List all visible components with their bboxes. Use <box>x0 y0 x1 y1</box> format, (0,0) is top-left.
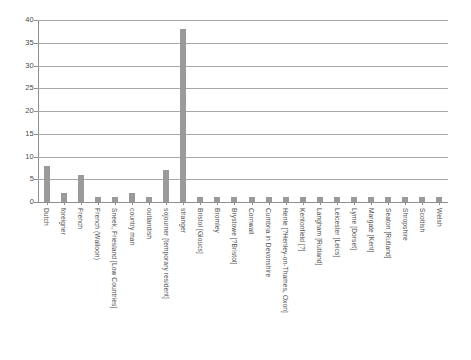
bar <box>78 175 84 202</box>
x-tick-mark <box>337 202 338 205</box>
y-tick-label: 0 <box>30 198 34 206</box>
bar <box>180 29 186 202</box>
x-tick-label: stranger <box>179 208 186 233</box>
bar <box>163 170 169 202</box>
x-tick-label: Welsh <box>435 208 442 227</box>
x-tick-label: Leicester [Leics] <box>333 208 340 257</box>
y-tick-label: 20 <box>25 107 34 115</box>
x-tick-label: Sneek, Friesland [Low Countries] <box>111 208 118 308</box>
x-tick-label: country man <box>128 208 135 245</box>
x-tick-label: Cornwall <box>248 208 255 234</box>
y-tick-label: 40 <box>25 16 34 24</box>
x-tick-mark <box>354 202 355 205</box>
bar-chart: 0510152025303540 DutchforeignerFrenchFre… <box>0 0 471 360</box>
x-tick-mark <box>439 202 440 205</box>
x-tick-label: Brystowe [?Bristol] <box>230 208 237 265</box>
x-tick-label: outlandish <box>145 208 152 239</box>
x-tick-mark <box>405 202 406 205</box>
x-tick-label: Margate [Kent] <box>367 208 374 253</box>
x-tick-mark <box>234 202 235 205</box>
x-tick-label: Dutch <box>43 208 50 226</box>
bar <box>44 166 50 202</box>
bar <box>129 193 135 202</box>
x-tick-label: French (Walloon) <box>94 208 101 260</box>
x-tick-mark <box>132 202 133 205</box>
y-tick-label: 25 <box>25 85 34 93</box>
x-tick-label: Bristol [Gloucs] <box>196 208 203 254</box>
x-tick-label: foreigner <box>60 208 67 235</box>
x-tick-label: Kentonfield [?] <box>299 208 306 252</box>
y-tick-label: 5 <box>30 176 34 184</box>
x-tick-mark <box>183 202 184 205</box>
x-tick-mark <box>320 202 321 205</box>
x-tick-mark <box>81 202 82 205</box>
y-tick-label: 10 <box>25 153 34 161</box>
x-tick-label: Scottish <box>418 208 425 232</box>
x-tick-mark <box>252 202 253 205</box>
x-tick-label: Lyme [Dorset] <box>350 208 357 250</box>
x-tick-mark <box>371 202 372 205</box>
bars-layer <box>38 20 448 202</box>
bar <box>61 193 67 202</box>
x-tick-mark <box>115 202 116 205</box>
x-tick-mark <box>286 202 287 205</box>
x-tick-mark <box>200 202 201 205</box>
x-tick-mark <box>149 202 150 205</box>
x-axis-line <box>38 202 448 203</box>
x-tick-label: Bromley <box>213 208 220 233</box>
y-tick-label: 30 <box>25 62 34 70</box>
x-tick-label: Seaton [Rutland] <box>384 208 391 259</box>
x-tick-mark <box>303 202 304 205</box>
y-tick-mark <box>34 202 38 203</box>
x-tick-label: Henle [?Henley-on-Thames, Oxon] <box>282 208 289 313</box>
x-tick-mark <box>422 202 423 205</box>
y-tick-label: 15 <box>25 130 34 138</box>
x-tick-mark <box>166 202 167 205</box>
x-tick-label: Shropshire <box>401 208 408 241</box>
y-tick-label: 35 <box>25 39 34 47</box>
x-tick-label: Langham [Rutland] <box>316 208 323 265</box>
x-tick-mark <box>47 202 48 205</box>
x-tick-mark <box>217 202 218 205</box>
x-tick-label: sojourner [temporary resident] <box>162 208 169 299</box>
x-tick-mark <box>64 202 65 205</box>
x-tick-mark <box>269 202 270 205</box>
x-tick-label: Cumbria in Devonshire <box>265 208 272 277</box>
x-tick-label: French <box>77 208 84 229</box>
x-tick-mark <box>388 202 389 205</box>
x-tick-mark <box>98 202 99 205</box>
